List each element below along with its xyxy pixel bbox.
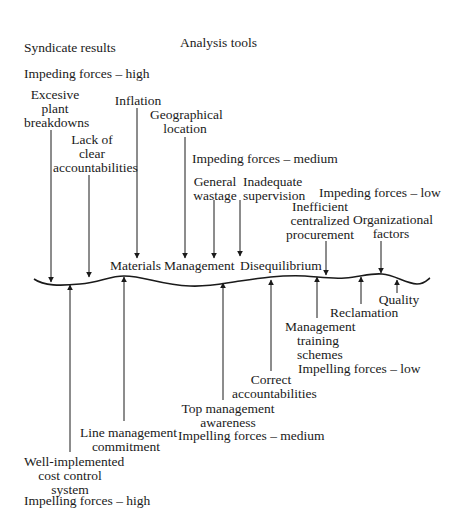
equilibrium-wavy-line — [34, 274, 430, 286]
